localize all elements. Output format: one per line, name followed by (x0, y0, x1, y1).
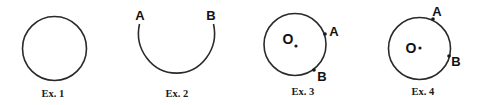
point-b (312, 68, 316, 72)
arc-shape (139, 24, 215, 73)
point-label-a: A (329, 24, 339, 39)
caption-ex-1: Ex. 1 (42, 88, 65, 99)
center-label-o: O (406, 40, 417, 56)
example-4: O A B Ex. 4 (389, 4, 461, 97)
point-b (447, 54, 451, 58)
example-2: A B Ex. 2 (135, 8, 215, 99)
circle-shape (23, 17, 87, 81)
example-1: Ex. 1 (23, 17, 87, 100)
point-label-b: B (206, 8, 215, 23)
figure-examples: Ex. 1 A B Ex. 2 O A B Ex. 3 O A B Ex. 4 (0, 0, 481, 105)
point-a (323, 32, 327, 36)
caption-ex-2: Ex. 2 (166, 88, 189, 99)
point-label-b: B (451, 54, 460, 69)
caption-ex-4: Ex. 4 (412, 86, 436, 97)
center-point (294, 44, 297, 47)
point-label-a: A (432, 4, 442, 19)
center-label-o: O (283, 31, 294, 47)
center-point (418, 46, 421, 49)
point-label-b: B (317, 69, 326, 84)
point-label-a: A (135, 8, 145, 23)
caption-ex-3: Ex. 3 (292, 86, 315, 97)
circle-shape (264, 14, 326, 76)
example-3: O A B Ex. 3 (264, 14, 339, 98)
